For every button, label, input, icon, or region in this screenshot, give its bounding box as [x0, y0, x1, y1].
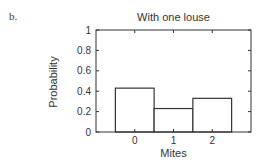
y-tick-label: 1	[85, 25, 91, 36]
y-tick-label: 0	[85, 127, 91, 138]
bar-0	[115, 88, 154, 132]
y-tick-label: 0.2	[77, 106, 91, 117]
x-tick-label: 0	[132, 135, 138, 146]
x-tick-label: 1	[171, 135, 177, 146]
y-tick-label: 0.8	[77, 45, 91, 56]
y-tick-label: 0.4	[77, 86, 91, 97]
bar-2	[193, 98, 232, 132]
x-tick-label: 2	[209, 135, 215, 146]
y-tick-label: 0.6	[77, 65, 91, 76]
bar-1	[154, 109, 193, 132]
plot-area: 00.20.40.60.81012	[0, 0, 263, 162]
